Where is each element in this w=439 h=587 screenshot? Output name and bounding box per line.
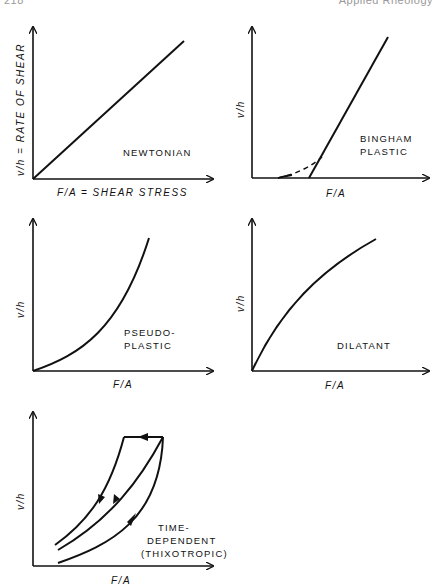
panel-dilatant: DILATANT F/A v/h — [235, 219, 429, 391]
panel-newtonian: NEWTONIAN F/A = SHEAR STRESS v/h = RATE … — [15, 27, 213, 198]
x-axis-label: F/A — [111, 575, 131, 586]
panel-label: NEWTONIAN — [123, 147, 192, 158]
y-axis-label: v/h = RATE OF SHEAR — [15, 43, 26, 176]
panel-label-line2: PLASTIC — [124, 340, 172, 351]
rheology-diagram: NEWTONIAN F/A = SHEAR STRESS v/h = RATE … — [0, 0, 439, 587]
panel-pseudoplastic: PSEUDO- PLASTIC F/A v/h — [15, 219, 213, 390]
y-axis-label: v/h — [15, 300, 26, 318]
panel-label-line1: TIME- — [158, 522, 190, 533]
arrow-left-icon — [138, 433, 148, 441]
y-axis-label: v/h — [235, 294, 246, 312]
panel-label-line2: PLASTIC — [360, 146, 408, 157]
pseudoplastic-curve — [33, 238, 149, 371]
panel-label-line3: (THIXOTROPIC) — [141, 548, 228, 559]
x-axis-label: F/A — [325, 380, 345, 391]
panel-thixotropic: TIME- DEPENDENT (THIXOTROPIC) F/A v/h — [15, 412, 228, 586]
y-axis-label: v/h — [235, 100, 246, 118]
x-axis-label: F/A — [326, 188, 346, 199]
y-axis-label: v/h — [15, 492, 26, 510]
down-curve-2 — [58, 437, 163, 550]
panel-bingham: BINGHAM PLASTIC F/A v/h — [235, 27, 429, 199]
x-axis-label: F/A — [113, 379, 133, 390]
panel-label-line2: DEPENDENT — [147, 535, 216, 546]
newtonian-curve — [33, 41, 184, 179]
panel-label-line1: PSEUDO- — [124, 327, 176, 338]
panel-label-line1: BINGHAM — [360, 133, 413, 144]
x-axis-label: F/A = SHEAR STRESS — [57, 187, 188, 198]
arrow-down-icon — [98, 494, 105, 504]
panel-label: DILATANT — [337, 340, 391, 351]
dilatant-curve — [252, 239, 376, 371]
